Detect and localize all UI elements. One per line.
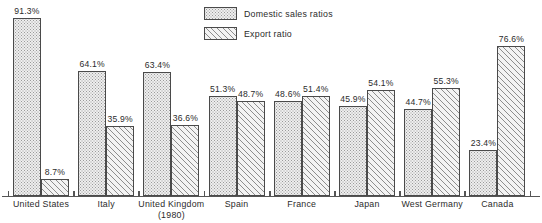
hatch-swatch-icon [204,27,237,40]
chart-legend: Domestic sales ratios Export ratio [204,6,394,46]
dotted-swatch-icon [204,7,237,20]
bar [367,90,395,196]
bar-value-label: 63.4% [138,60,176,70]
bar-value-label: 8.7% [36,167,74,177]
bar [209,96,237,196]
bar-value-label: 51.4% [297,84,335,94]
bar [106,126,134,196]
x-axis-tick [530,191,531,196]
x-axis-tick [8,191,9,196]
bar-value-label: 48.7% [232,89,270,99]
bar [274,101,302,196]
bar-value-label: 55.3% [427,76,465,86]
x-axis-tick [138,191,139,196]
legend-item-domestic: Domestic sales ratios [204,6,394,21]
bar [237,101,265,196]
x-axis-label: Canada [457,199,537,209]
bar-value-label: 91.3% [8,6,46,16]
bar-value-label: 64.1% [73,59,111,69]
bar [339,106,367,196]
bar [171,125,199,196]
bar [469,150,497,196]
bar-value-label: 35.9% [101,114,139,124]
bar [78,71,106,196]
bar-value-label: 76.6% [492,34,530,44]
x-axis-tick [399,191,400,196]
x-axis-tick [334,191,335,196]
bar-value-label: 36.6% [166,113,204,123]
legend-label-export: Export ratio [244,29,292,39]
x-axis-line [2,196,540,197]
bar-chart: 91.3%8.7%64.1%35.9%63.4%36.6%51.3%48.7%4… [0,0,542,223]
x-axis-label-note: (1980) [131,210,211,220]
bar [41,179,69,196]
x-axis-tick [204,191,205,196]
bar [404,109,432,196]
x-axis-tick [464,191,465,196]
x-axis-labels: United StatesItalyUnited Kingdom(1980)Sp… [0,199,542,223]
legend-item-export: Export ratio [204,26,394,41]
bar-value-label: 54.1% [362,78,400,88]
bar [302,96,330,196]
legend-label-domestic: Domestic sales ratios [244,9,333,19]
bar [497,46,525,196]
bar [432,88,460,196]
bar [143,72,171,196]
x-axis-tick [73,191,74,196]
x-axis-tick [269,191,270,196]
